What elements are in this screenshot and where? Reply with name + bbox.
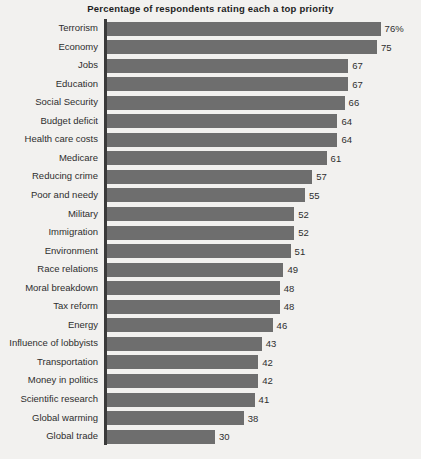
bar-fill xyxy=(107,188,305,202)
bar xyxy=(107,337,262,351)
bar-value-label: 67 xyxy=(352,77,363,92)
bar xyxy=(107,300,280,314)
bar xyxy=(107,133,337,147)
bar-value-label: 42 xyxy=(262,355,273,370)
bar-category-label: Energy xyxy=(0,316,98,335)
bar xyxy=(107,411,244,425)
bar-category-label: Influence of lobbyists xyxy=(0,334,98,353)
bar-row: Moral breakdown48 xyxy=(0,279,421,298)
bar-row: Transportation42 xyxy=(0,353,421,372)
bar xyxy=(107,318,273,332)
bar xyxy=(107,207,294,221)
bar xyxy=(107,114,337,128)
bar-fill xyxy=(107,133,337,147)
bar xyxy=(107,22,381,36)
bar-row: Economy75 xyxy=(0,38,421,57)
bar-row: Poor and needy55 xyxy=(0,186,421,205)
bar-fill xyxy=(107,411,244,425)
bar xyxy=(107,355,258,369)
bar-category-label: Money in politics xyxy=(0,371,98,390)
bar-row: Reducing crime57 xyxy=(0,167,421,186)
bar-value-label: 67 xyxy=(352,58,363,73)
bar xyxy=(107,226,294,240)
bar xyxy=(107,188,305,202)
bar-fill xyxy=(107,170,312,184)
bar-value-label: 52 xyxy=(298,225,309,240)
bar-value-label: 30 xyxy=(219,429,230,444)
bar-fill xyxy=(107,226,294,240)
bar-fill xyxy=(107,355,258,369)
plot-area: Terrorism76%Economy75Jobs67Education67So… xyxy=(0,19,421,449)
bar xyxy=(107,244,291,258)
bar-value-label: 51 xyxy=(295,244,306,259)
bar xyxy=(107,151,327,165)
bar-category-label: Race relations xyxy=(0,260,98,279)
bar-category-label: Medicare xyxy=(0,149,98,168)
bar-category-label: Poor and needy xyxy=(0,186,98,205)
bar-fill xyxy=(107,374,258,388)
bar-category-label: Global warming xyxy=(0,409,98,428)
bar-fill xyxy=(107,430,215,444)
bar-fill xyxy=(107,337,262,351)
bar-category-label: Health care costs xyxy=(0,130,98,149)
bar-value-label: 64 xyxy=(341,114,352,129)
bar-row: Global warming38 xyxy=(0,409,421,428)
bar-category-label: Jobs xyxy=(0,56,98,75)
bar-category-label: Education xyxy=(0,75,98,94)
bar-fill xyxy=(107,300,280,314)
bar xyxy=(107,96,345,110)
bar-value-label: 38 xyxy=(248,411,259,426)
bar-category-label: Transportation xyxy=(0,353,98,372)
bar-value-label: 75 xyxy=(381,40,392,55)
bar-value-label: 43 xyxy=(266,336,277,351)
bar-row: Scientific research41 xyxy=(0,390,421,409)
bar-row: Money in politics42 xyxy=(0,371,421,390)
bar-category-label: Social Security xyxy=(0,93,98,112)
bar-category-label: Global trade xyxy=(0,427,98,446)
bar-category-label: Immigration xyxy=(0,223,98,242)
bar-category-label: Military xyxy=(0,205,98,224)
bar-value-label: 49 xyxy=(287,262,298,277)
bar-row: Tax reform48 xyxy=(0,297,421,316)
bar-value-label: 42 xyxy=(262,373,273,388)
bar-category-label: Environment xyxy=(0,242,98,261)
bar-value-label: 48 xyxy=(284,281,295,296)
bar-fill xyxy=(107,40,377,54)
bar xyxy=(107,170,312,184)
bar-category-label: Economy xyxy=(0,38,98,57)
bar-value-label: 66 xyxy=(349,95,360,110)
bar-fill xyxy=(107,281,280,295)
bar-value-label: 48 xyxy=(284,299,295,314)
bar-category-label: Budget deficit xyxy=(0,112,98,131)
bar-fill xyxy=(107,151,327,165)
bar-value-label: 61 xyxy=(331,151,342,166)
bar-value-label: 41 xyxy=(259,392,270,407)
bar-fill xyxy=(107,114,337,128)
bar-category-label: Reducing crime xyxy=(0,167,98,186)
chart-title: Percentage of respondents rating each a … xyxy=(0,2,421,15)
bar-fill xyxy=(107,207,294,221)
bar-row: Social Security66 xyxy=(0,93,421,112)
bar-row: Race relations49 xyxy=(0,260,421,279)
bar-row: Military52 xyxy=(0,205,421,224)
bar-value-label: 55 xyxy=(309,188,320,203)
bar-row: Immigration52 xyxy=(0,223,421,242)
bar-value-label: 46 xyxy=(277,318,288,333)
bar xyxy=(107,374,258,388)
bar-category-label: Tax reform xyxy=(0,297,98,316)
bar-row: Terrorism76% xyxy=(0,19,421,38)
bar xyxy=(107,281,280,295)
bar-category-label: Moral breakdown xyxy=(0,279,98,298)
bar xyxy=(107,393,255,407)
bar-category-label: Scientific research xyxy=(0,390,98,409)
bar-fill xyxy=(107,244,291,258)
bar-fill xyxy=(107,263,283,277)
bar-row: Energy46 xyxy=(0,316,421,335)
bar-chart: Percentage of respondents rating each a … xyxy=(0,0,421,459)
bar xyxy=(107,263,283,277)
bar xyxy=(107,40,377,54)
bar-row: Global trade30 xyxy=(0,427,421,446)
bar xyxy=(107,430,215,444)
bar-fill xyxy=(107,96,345,110)
bar-row: Health care costs64 xyxy=(0,130,421,149)
